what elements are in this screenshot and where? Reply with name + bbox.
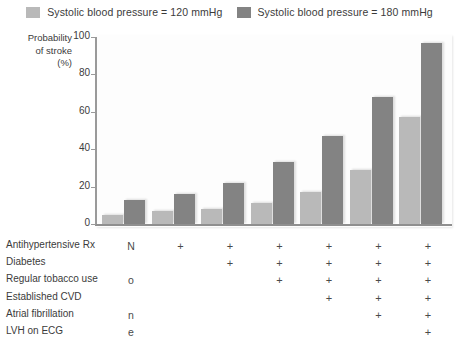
bar-group [152,35,196,227]
factor-mark: + [223,256,237,270]
factor-row: Antihypertensive Rx++++++ [0,239,459,255]
factor-row-label: Antihypertensive Rx [6,239,132,250]
y-axis-tick-mark-20 [91,187,96,188]
factor-row-label: Established CVD [6,291,132,302]
factor-mark: + [372,256,386,270]
factor-row: Diabetes+++++ [0,256,459,272]
y-axis-tick-mark-100 [91,37,96,38]
factor-mark: + [372,239,386,253]
bar [322,136,343,224]
factor-mark: + [322,273,336,287]
factor-row-label: Regular tobacco use [6,273,132,284]
factor-mark: + [223,239,237,253]
factor-mark: + [273,256,287,270]
bar [421,43,442,224]
legend-swatch-sbp120 [26,7,40,18]
bar [201,209,222,224]
factor-row: LVH on ECG+ [0,325,459,341]
factor-mark: + [421,256,435,270]
factor-mark: + [322,291,336,305]
none-label-letter: N [124,240,138,252]
y-axis-tick-label-0: 0 [60,217,90,228]
y-axis-tick-label-80: 80 [60,67,90,78]
y-axis-tick-label-40: 40 [60,142,90,153]
x-axis-line [95,224,452,226]
y-axis-tick-mark-80 [91,74,96,75]
bar [350,170,371,224]
bars-container [96,35,452,227]
legend-entry-sbp180: Systolic blood pressure = 180 mmHg [237,6,433,18]
chart-legend: Systolic blood pressure = 120 mmHg Systo… [0,6,459,18]
y-axis-tick-mark-40 [91,149,96,150]
bar [223,183,244,224]
bar-group [399,35,443,227]
factor-row: Established CVD+++ [0,291,459,307]
factor-row-label: Atrial fibrillation [6,308,132,319]
bar [174,194,195,224]
none-label-letter: n [124,309,138,321]
legend-label-sbp120: Systolic blood pressure = 120 mmHg [47,6,222,18]
factor-mark: + [421,291,435,305]
legend-label-sbp180: Systolic blood pressure = 180 mmHg [258,6,433,18]
none-label-letter: o [124,274,138,286]
factor-row: Atrial fibrillation++ [0,308,459,324]
bar-group [300,35,344,227]
bar [251,203,272,224]
bar [273,162,294,224]
bar [399,117,420,224]
factor-mark: + [322,256,336,270]
factor-mark: + [372,291,386,305]
factor-mark: + [273,239,287,253]
y-axis-tick-label-100: 100 [60,30,90,41]
none-label-letter: e [124,326,138,338]
factor-mark: + [372,308,386,322]
factor-row-label: LVH on ECG [6,325,132,336]
bar [124,200,145,224]
legend-swatch-sbp180 [237,7,251,18]
factor-mark: + [421,308,435,322]
y-axis-tick-mark-0 [91,224,96,225]
y-axis-tick-mark-60 [91,112,96,113]
plot-panel [96,35,452,227]
factor-mark: + [421,239,435,253]
bar [300,192,321,224]
bar-group [201,35,245,227]
y-axis-tick-label-60: 60 [60,105,90,116]
factor-row-label: Diabetes [6,256,132,267]
bar [152,211,173,224]
factor-mark: + [421,273,435,287]
factor-mark: + [174,239,188,253]
y-axis-tick-label-20: 20 [60,180,90,191]
bar-group [251,35,295,227]
factor-mark: + [372,273,386,287]
factor-row: Regular tobacco use++++ [0,273,459,289]
bar [372,97,393,224]
factor-mark: + [273,273,287,287]
bar-group [350,35,394,227]
bar-group [102,35,146,227]
factor-mark: + [421,325,435,339]
factor-mark: + [322,239,336,253]
risk-factor-table: Antihypertensive Rx++++++Diabetes+++++Re… [0,239,459,347]
legend-entry-sbp120: Systolic blood pressure = 120 mmHg [26,6,222,18]
y-axis-line [95,37,97,225]
y-axis-title-line2: of stroke [0,45,72,58]
bar [102,215,123,224]
